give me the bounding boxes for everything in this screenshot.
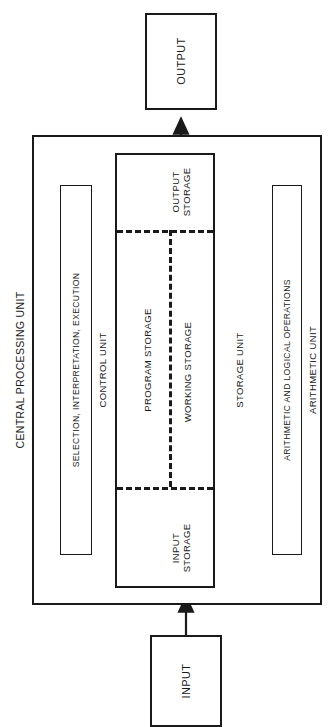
storage-divider-lower (117, 487, 213, 490)
cpu-label: CENTRAL PROCESSING UNIT (14, 291, 26, 448)
control-unit-node (60, 185, 92, 555)
arithmetic-unit-node (272, 185, 302, 555)
storage-unit-node (115, 153, 215, 588)
storage-divider-upper (117, 230, 213, 233)
storage-divider-middle (169, 230, 172, 487)
input-node (150, 635, 222, 727)
output-node (145, 13, 217, 110)
